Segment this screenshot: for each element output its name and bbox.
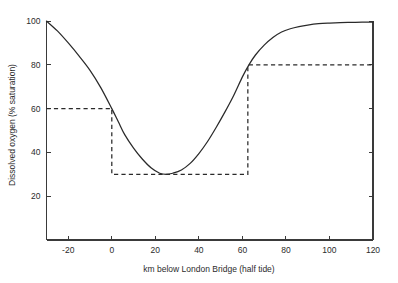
dissolved-oxygen-line-chart: 20406080100 -20020406080100120 Dissolved… xyxy=(0,0,398,283)
y-tick-label: 100 xyxy=(26,16,40,26)
y-tick-label: 80 xyxy=(31,60,41,70)
x-tick-label: 40 xyxy=(194,245,204,255)
y-tick-label: 60 xyxy=(31,104,41,114)
y-axis-tick-labels: 20406080100 xyxy=(26,16,40,201)
chart-figure: 20406080100 -20020406080100120 Dissolved… xyxy=(0,0,398,283)
x-tick-label: 80 xyxy=(281,245,291,255)
x-axis-tick-group xyxy=(68,236,373,241)
y-axis-title: Dissolved oxygen (% saturation) xyxy=(7,64,17,186)
series-water-quality-standard xyxy=(47,65,374,174)
x-tick-label: 60 xyxy=(238,245,248,255)
x-axis-title: km below London Bridge (half tide) xyxy=(143,264,275,274)
x-tick-label: 20 xyxy=(151,245,161,255)
y-tick-label: 40 xyxy=(31,147,41,157)
x-tick-label: 100 xyxy=(322,245,336,255)
x-axis-tick-labels: -20020406080100120 xyxy=(62,245,380,255)
y-tick-label: 20 xyxy=(31,191,41,201)
series-observed-oxygen-curve xyxy=(47,21,374,174)
x-tick-label: 0 xyxy=(109,245,114,255)
x-tick-label: 120 xyxy=(366,245,380,255)
x-tick-label: -20 xyxy=(62,245,75,255)
right-axis-tick-group xyxy=(369,21,374,196)
